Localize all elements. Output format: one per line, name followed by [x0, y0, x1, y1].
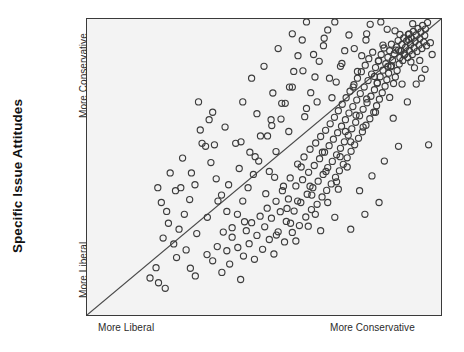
scatter-point [426, 142, 432, 148]
scatter-point [206, 117, 212, 123]
scatter-point [240, 99, 246, 105]
scatter-point [226, 182, 232, 188]
scatter-point [210, 258, 216, 264]
scatter-point [178, 185, 184, 191]
scatter-point [341, 139, 347, 145]
scatter-point [275, 46, 281, 52]
scatter-point [330, 136, 336, 142]
scatter-point [224, 248, 230, 254]
scatter-point [249, 220, 255, 226]
scatter-point [299, 37, 305, 43]
scatter-point [155, 280, 161, 286]
scatter-point [362, 211, 368, 217]
scatter-point [287, 175, 293, 181]
scatter-point [325, 27, 331, 33]
scatter-point [164, 208, 170, 214]
scatter-point [366, 56, 372, 62]
scatter-point [215, 198, 221, 204]
scatter-point [392, 28, 398, 34]
scatter-point [218, 192, 224, 198]
scatter-point [257, 133, 263, 139]
scatter-point [315, 178, 321, 184]
scatter-point [363, 37, 369, 43]
scatter-point [261, 63, 267, 69]
scatter-point [266, 236, 272, 242]
scatter-point [204, 252, 210, 258]
scatter-point [254, 111, 260, 117]
scatter-point [422, 32, 428, 38]
scatter-point [394, 67, 400, 73]
scatter-point [147, 275, 153, 281]
scatter-point [173, 254, 179, 260]
scatter-point [252, 154, 258, 160]
scatter-point [313, 140, 319, 146]
scatter-point [346, 110, 352, 116]
scatter-point [311, 162, 317, 168]
scatter-point [187, 265, 193, 271]
scatter-point [335, 108, 341, 114]
scatter-point [376, 199, 382, 205]
scatter-point [348, 148, 354, 154]
scatter-point [319, 194, 325, 200]
scatter-point [251, 256, 257, 262]
scatter-point [289, 229, 295, 235]
scatter-point [300, 68, 306, 74]
scatter-point [257, 213, 263, 219]
scatter-point [197, 127, 203, 133]
scatter-point [346, 32, 352, 38]
scatter-point [284, 205, 290, 211]
scatter-point [354, 75, 360, 81]
scatter-point [285, 196, 291, 202]
scatter-point [387, 94, 393, 100]
scatter-point [408, 59, 414, 65]
scatter-point [354, 68, 360, 74]
scatter-point [235, 244, 241, 250]
scatter-point [382, 83, 388, 89]
scatter-point [332, 19, 338, 25]
scatter-point [314, 99, 320, 105]
scatter-point [418, 75, 424, 81]
scatter-point [364, 31, 370, 37]
scatter-point [210, 109, 216, 115]
scatter-point [245, 185, 251, 191]
scatter-point [219, 269, 225, 275]
scatter-point [342, 48, 348, 54]
scatter-point [378, 51, 384, 57]
scatter-point [204, 214, 210, 220]
scatter-point [220, 229, 226, 235]
scatter-point [307, 146, 313, 152]
scatter-point [187, 196, 193, 202]
scatter-point [188, 170, 194, 176]
scatter-point [326, 143, 332, 149]
scatter-point [320, 43, 326, 49]
scatter-point [372, 64, 378, 70]
scatter-point [254, 232, 260, 238]
scatter-point [192, 273, 198, 279]
scatter-point [291, 208, 297, 214]
scatter-point [308, 90, 314, 96]
scatter-point [208, 159, 214, 165]
scatter-point [373, 103, 379, 109]
scatter-point [246, 241, 252, 247]
scatter-point [367, 21, 373, 27]
scatter-point [289, 31, 295, 37]
scatter-point [316, 58, 322, 64]
scatter-point [277, 209, 283, 215]
scatter-point [302, 114, 308, 120]
scatter-point [303, 105, 309, 111]
scatter-point [262, 224, 268, 230]
scatter-point [264, 205, 270, 211]
scatter-point [281, 239, 287, 245]
scatter-point [356, 188, 362, 194]
scatter-point [399, 81, 405, 87]
scatter-point [240, 253, 246, 259]
scatter-point [386, 70, 392, 76]
scatter-point [305, 223, 311, 229]
scatter-point [303, 19, 309, 25]
scatter-point [278, 116, 284, 122]
scatter-point [162, 285, 168, 291]
scatter-point [263, 191, 269, 197]
scatter-point [323, 127, 329, 133]
scatter-point [429, 51, 435, 57]
scatter-point [347, 88, 353, 94]
